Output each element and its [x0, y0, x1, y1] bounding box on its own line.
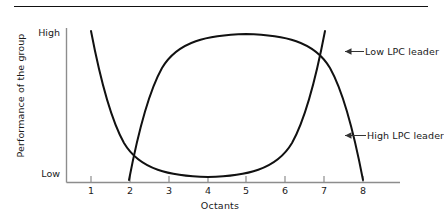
- leader-line-low-lpc: [345, 48, 364, 54]
- x-axis-title: Octants: [0, 200, 440, 211]
- curve-high-lpc-leader: [129, 34, 363, 180]
- x-tick-label-6: 6: [275, 185, 295, 196]
- x-tick-label-2: 2: [120, 185, 140, 196]
- x-tick-label-3: 3: [159, 185, 179, 196]
- y-axis-label-low: Low: [20, 168, 60, 179]
- x-tick-label-4: 4: [198, 185, 218, 196]
- x-tick-label-1: 1: [81, 185, 101, 196]
- x-tick-label-8: 8: [353, 185, 373, 196]
- y-axis-title: Performance of the group: [15, 26, 26, 166]
- annotation-high-lpc-leader: High LPC leader: [367, 130, 444, 141]
- x-axis-ticks: [91, 176, 363, 183]
- x-tick-label-7: 7: [314, 185, 334, 196]
- curve-low-lpc-leader: [91, 31, 325, 177]
- x-tick-label-5: 5: [236, 185, 256, 196]
- annotation-low-lpc-leader: Low LPC leader: [365, 46, 439, 57]
- y-axis-label-high: High: [20, 27, 60, 38]
- leader-line-high-lpc: [345, 132, 366, 138]
